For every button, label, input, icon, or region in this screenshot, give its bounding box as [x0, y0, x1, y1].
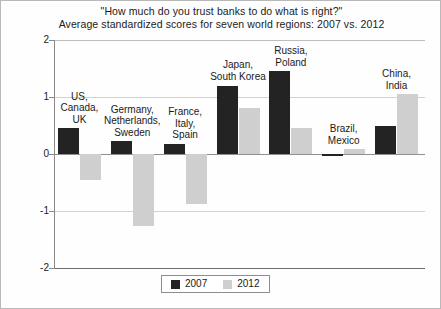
- legend-label: 2007: [185, 279, 207, 289]
- bar-2007: [322, 154, 343, 156]
- bar-2012: [344, 149, 365, 154]
- bar-2007: [269, 71, 290, 154]
- gridline-2: [55, 40, 425, 41]
- legend-label: 2012: [237, 279, 259, 289]
- gridline--1: [55, 211, 425, 212]
- bar-group-label: Russia,Poland: [246, 45, 336, 68]
- chart-legend: 20072012: [161, 275, 270, 293]
- chart-titles: "How much do you trust banks to do what …: [1, 5, 441, 31]
- bar-2012: [186, 154, 207, 204]
- bar-2012: [239, 108, 260, 154]
- y-axis-tick-label: 0: [5, 149, 49, 159]
- bar-group-label: China,India: [352, 68, 441, 91]
- y-tick--2: [49, 268, 55, 269]
- legend-swatch-icon: [171, 280, 180, 289]
- y-tick-0: [49, 154, 55, 155]
- bar-2012: [133, 154, 154, 226]
- y-tick-2: [49, 40, 55, 41]
- legend-item-2007[interactable]: 2007: [171, 279, 207, 289]
- chart-figure: "How much do you trust banks to do what …: [0, 0, 441, 309]
- y-axis-tick-label: -1: [5, 206, 49, 216]
- bar-2012: [80, 154, 101, 180]
- bar-2007: [217, 86, 238, 154]
- bar-2007: [58, 128, 79, 154]
- y-axis-tick-label: 2: [5, 35, 49, 45]
- legend-item-2012[interactable]: 2012: [223, 279, 259, 289]
- chart-subtitle: Average standardized scores for seven wo…: [1, 18, 441, 31]
- gridline--2: [55, 268, 425, 269]
- y-axis-tick-label: -2: [5, 263, 49, 273]
- bar-2007: [111, 141, 132, 154]
- legend-swatch-icon: [223, 280, 232, 289]
- y-tick-1: [49, 97, 55, 98]
- y-tick--1: [49, 211, 55, 212]
- gridline-0: [55, 154, 425, 155]
- chart-title: "How much do you trust banks to do what …: [1, 5, 441, 18]
- bar-2012: [397, 94, 418, 154]
- y-axis-labels: 210-1-2: [1, 1, 49, 309]
- bar-2007: [164, 144, 185, 154]
- plot-area: US,Canada,UKGermany,Netherlands,SwedenFr…: [55, 40, 425, 268]
- bar-2007: [375, 126, 396, 155]
